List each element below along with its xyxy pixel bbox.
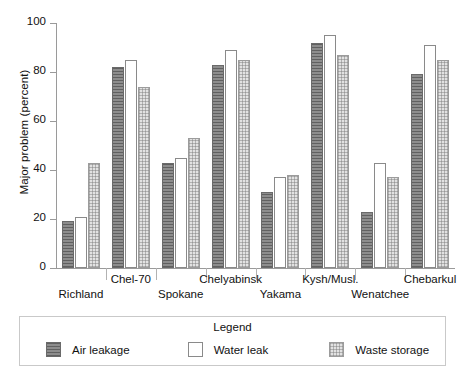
- bar: [238, 60, 250, 268]
- bar: [337, 55, 349, 268]
- x-axis-label: Chel-70: [111, 273, 151, 285]
- bar: [261, 192, 273, 268]
- plot-area: Major problem (percent) 020406080100 Ric…: [0, 0, 467, 300]
- legend-item[interactable]: Waste storage: [303, 342, 445, 357]
- bar: [411, 74, 423, 268]
- bar: [112, 67, 124, 268]
- legend-item-label: Air leakage: [72, 344, 130, 356]
- bar: [324, 35, 336, 268]
- legend: Legend Air leakageWater leakWaste storag…: [19, 316, 446, 366]
- bar: [311, 43, 323, 268]
- bar: [361, 212, 373, 268]
- y-axis-tick-label: 60: [10, 114, 46, 126]
- bar: [212, 65, 224, 268]
- x-axis-label: Spokane: [158, 288, 203, 300]
- y-axis-tick-label: 100: [10, 16, 46, 28]
- legend-swatch-icon: [329, 342, 344, 357]
- bar: [62, 221, 74, 268]
- legend-item-label: Water leak: [214, 344, 269, 356]
- x-axis-label: Wenatchee: [351, 288, 409, 300]
- y-axis-title: Major problem (percent): [18, 22, 30, 242]
- bar: [387, 177, 399, 268]
- bar: [225, 50, 237, 268]
- y-axis-tick-label: 20: [10, 212, 46, 224]
- legend-swatch-icon: [188, 342, 203, 357]
- legend-items: Air leakageWater leakWaste storage: [20, 342, 445, 357]
- bar-chart: Major problem (percent) 020406080100 Ric…: [0, 0, 467, 380]
- y-axis-tick-label: 40: [10, 163, 46, 175]
- bar: [175, 158, 187, 268]
- bar: [162, 163, 174, 268]
- legend-item[interactable]: Water leak: [162, 342, 304, 357]
- y-axis-tick-label: 80: [10, 65, 46, 77]
- bar: [138, 87, 150, 268]
- x-axis-label: Chebarkul: [404, 273, 456, 285]
- x-axis-label: Yakama: [260, 288, 301, 300]
- bar: [88, 163, 100, 268]
- x-axis-label: Kysh/Musl.: [302, 273, 358, 285]
- bar: [75, 217, 87, 268]
- x-axis-label: Richland: [59, 288, 104, 300]
- bar: [374, 163, 386, 268]
- legend-swatch-icon: [46, 342, 61, 357]
- legend-title: Legend: [20, 321, 445, 333]
- legend-item[interactable]: Air leakage: [20, 342, 162, 357]
- bar: [437, 60, 449, 268]
- bars-layer: [56, 23, 455, 268]
- x-axis-labels: RichlandChel-70SpokaneChelyabinskYakamaK…: [0, 268, 467, 302]
- bar: [287, 175, 299, 268]
- bar: [188, 138, 200, 268]
- x-axis-label: Chelyabinsk: [199, 273, 262, 285]
- bar: [125, 60, 137, 268]
- bar: [424, 45, 436, 268]
- legend-item-label: Waste storage: [355, 344, 429, 356]
- bar: [274, 177, 286, 268]
